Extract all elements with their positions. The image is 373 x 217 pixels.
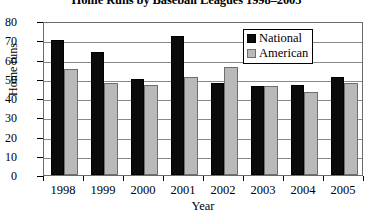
bar-chart: Home Runs by Baseball Leagues 1998–2005 … <box>0 0 373 217</box>
legend-label-national: National <box>259 32 302 45</box>
bar-national-2005 <box>331 77 345 175</box>
legend-swatch-american-icon <box>247 49 256 58</box>
bar-group <box>131 23 158 175</box>
bar-american-2000 <box>144 85 158 175</box>
chart-legend: National American <box>243 29 313 64</box>
x-tick-mark <box>123 176 124 181</box>
legend-swatch-national-icon <box>247 34 256 43</box>
x-tick-mark <box>83 176 84 181</box>
x-tick-mark <box>323 176 324 181</box>
bar-national-1999 <box>91 52 105 175</box>
x-tick-label: 2005 <box>320 183 366 198</box>
bar-american-2005 <box>344 83 358 175</box>
bar-american-1999 <box>104 83 118 175</box>
bar-national-2003 <box>251 86 265 175</box>
bar-american-2004 <box>304 92 318 175</box>
x-tick-mark <box>163 176 164 181</box>
bar-group <box>91 23 118 175</box>
bar-group <box>331 23 358 175</box>
bar-american-2002 <box>224 67 238 175</box>
x-tick-mark <box>243 176 244 181</box>
plot-area <box>43 22 363 176</box>
bar-national-1998 <box>51 40 65 175</box>
x-axis-title: Year <box>43 199 363 214</box>
legend-item-national: National <box>247 31 308 46</box>
bar-american-2003 <box>264 86 278 175</box>
x-tick-mark <box>283 176 284 181</box>
bar-national-2002 <box>211 83 225 175</box>
bar-group <box>171 23 198 175</box>
x-tick-mark <box>363 176 364 181</box>
legend-label-american: American <box>259 47 308 60</box>
y-tick-label: 10 <box>5 151 17 163</box>
chart-title: Home Runs by Baseball Leagues 1998–2005 <box>0 0 373 8</box>
bar-group <box>51 23 78 175</box>
bar-national-2000 <box>131 79 145 175</box>
bar-american-2001 <box>184 77 198 175</box>
bar-national-2001 <box>171 36 185 175</box>
bar-group <box>211 23 238 175</box>
bars-layer <box>44 23 362 175</box>
bar-national-2004 <box>291 85 305 175</box>
x-tick-mark <box>43 176 44 181</box>
legend-item-american: American <box>247 46 308 61</box>
y-tick-label: 20 <box>5 132 17 144</box>
y-axis-title: Home runs <box>6 25 21 115</box>
y-tick-label: 0 <box>11 170 17 182</box>
bar-american-1998 <box>64 69 78 175</box>
x-tick-mark <box>203 176 204 181</box>
